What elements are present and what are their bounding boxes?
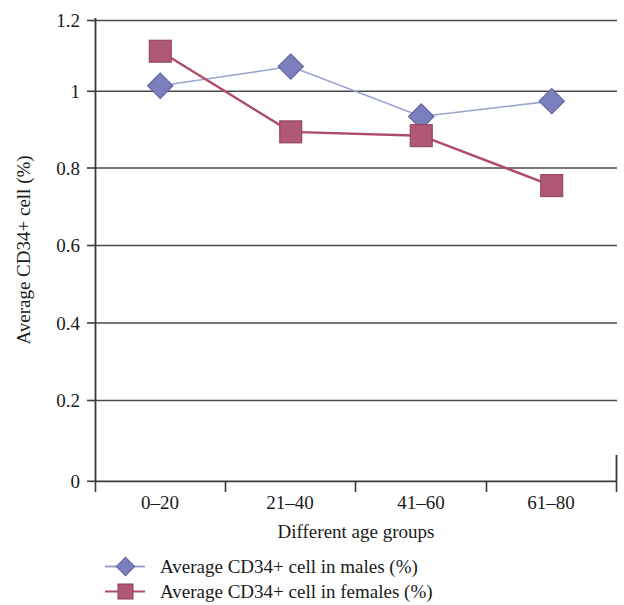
data-point-diamond[interactable] [539,88,564,113]
x-axis-tick-labels: 0–20 21–40 41–60 61–80 [141,492,575,513]
legend-item-males[interactable]: Average CD34+ cell in males (%) [105,556,418,578]
diamond-marker-icon [116,557,134,575]
y-axis-tick-labels: 1.2 1 0.8 0.6 0.4 0.2 0 [56,10,80,492]
legend-label-females: Average CD34+ cell in females (%) [160,581,433,603]
y-tick-label-0.2: 0.2 [56,390,80,411]
y-tick-label-0.6: 0.6 [56,235,80,256]
series-females [149,40,563,196]
data-point-diamond[interactable] [278,54,303,79]
y-tick-label-1: 1 [71,81,81,102]
data-point-square[interactable] [410,125,432,147]
data-point-square[interactable] [149,40,171,62]
gridlines [95,21,617,401]
data-point-square[interactable] [280,121,302,143]
x-axis-title: Different age groups [278,521,435,542]
y-tick-label-0.4: 0.4 [56,313,80,334]
square-marker-icon [118,584,133,599]
x-tick-label-3: 61–80 [527,492,575,513]
y-tick-label-0.8: 0.8 [56,158,80,179]
x-tick-label-2: 41–60 [397,492,445,513]
x-tick-label-0: 0–20 [141,492,179,513]
y-axis-title: Average CD34+ cell (%) [13,155,35,344]
chart-legend: Average CD34+ cell in males (%) Average … [105,556,433,603]
line-chart: 1.2 1 0.8 0.6 0.4 0.2 0 Average CD34+ ce… [0,0,624,605]
data-series-layer [148,40,565,196]
y-tick-label-1.2: 1.2 [56,10,80,31]
x-axis-ticks [96,481,617,492]
y-tick-label-0: 0 [71,471,81,492]
axis-lines [95,18,617,481]
legend-item-females[interactable]: Average CD34+ cell in females (%) [105,581,433,603]
data-point-square[interactable] [541,175,563,197]
data-point-diamond[interactable] [148,73,173,98]
series-line [160,51,552,185]
x-tick-label-1: 21–40 [266,492,314,513]
legend-label-males: Average CD34+ cell in males (%) [160,556,418,578]
chart-figure: 1.2 1 0.8 0.6 0.4 0.2 0 Average CD34+ ce… [0,0,624,605]
y-axis-ticks [87,21,95,482]
